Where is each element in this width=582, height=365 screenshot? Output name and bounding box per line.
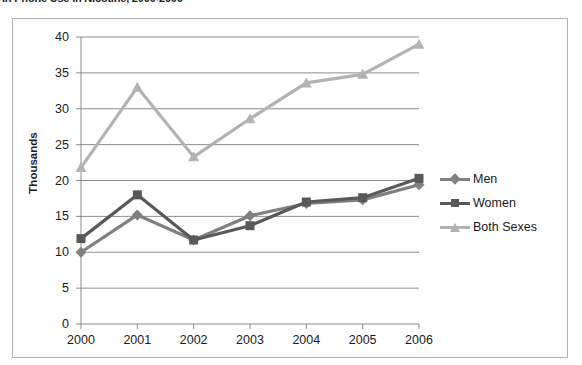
- legend-item-women[interactable]: Women: [440, 191, 560, 215]
- data-point-marker: [358, 193, 367, 202]
- y-axis-tick-label: 30: [35, 102, 69, 116]
- page-title: in Phone Use in Nicotine, 2000-2006: [2, 0, 183, 4]
- chart-legend: MenWomenBoth Sexes: [440, 167, 560, 239]
- data-point-marker: [414, 39, 425, 49]
- x-axis-tick-label: 2001: [107, 333, 167, 347]
- legend-label: Women: [473, 196, 516, 210]
- y-axis-tick-label: 40: [35, 30, 69, 44]
- legend-item-both-sexes[interactable]: Both Sexes: [440, 215, 560, 239]
- y-axis-tick-label: 25: [35, 138, 69, 152]
- x-axis-tick-label: 2002: [164, 333, 224, 347]
- chart-frame: Thousands MenWomenBoth Sexes 05101520253…: [12, 18, 568, 358]
- data-point-marker: [132, 82, 143, 92]
- x-axis-tick-label: 2003: [220, 333, 280, 347]
- y-axis-tick-label: 5: [35, 281, 69, 295]
- series-line-both-sexes: [81, 44, 419, 167]
- y-axis-tick-label: 35: [35, 66, 69, 80]
- legend-swatch-icon: [440, 196, 470, 210]
- legend-item-men[interactable]: Men: [440, 167, 560, 191]
- series-line-women: [81, 178, 419, 240]
- legend-label: Both Sexes: [473, 220, 537, 234]
- y-axis-tick-label: 15: [35, 209, 69, 223]
- data-point-marker: [415, 174, 424, 183]
- data-point-marker: [77, 234, 86, 243]
- x-axis-tick-label: 2000: [51, 333, 111, 347]
- legend-swatch-icon: [440, 220, 470, 234]
- legend-label: Men: [473, 172, 497, 186]
- y-axis-tick-label: 0: [35, 317, 69, 331]
- data-point-marker: [246, 221, 255, 230]
- data-point-marker: [302, 198, 311, 207]
- x-axis-tick-label: 2006: [389, 333, 449, 347]
- data-point-marker: [133, 190, 142, 199]
- y-axis-tick-label: 20: [35, 174, 69, 188]
- legend-swatch-icon: [440, 172, 470, 186]
- x-axis-tick-label: 2005: [333, 333, 393, 347]
- x-axis-tick-label: 2004: [276, 333, 336, 347]
- chart-title-strip: in Phone Use in Nicotine, 2000-2006: [0, 0, 582, 9]
- data-point-marker: [189, 236, 198, 245]
- data-point-marker: [245, 210, 256, 221]
- y-axis-tick-label: 10: [35, 245, 69, 259]
